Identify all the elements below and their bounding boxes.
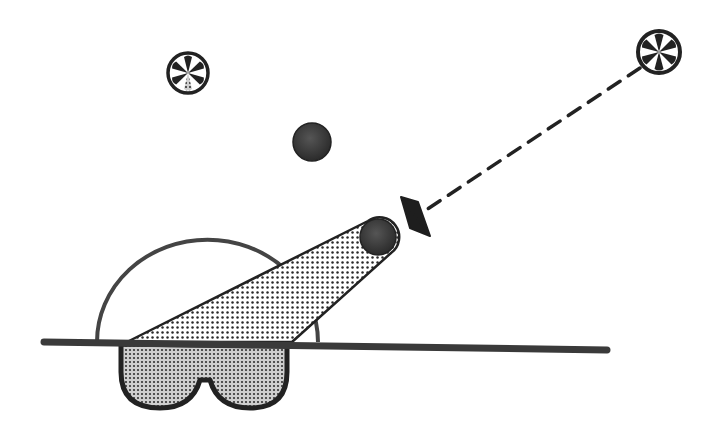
ball-cone-tip	[360, 219, 396, 255]
ball-top	[293, 123, 331, 161]
dashed-ray	[420, 68, 640, 214]
diagram-canvas	[0, 0, 723, 435]
source-left-icon	[168, 53, 208, 93]
cone-beam	[127, 217, 399, 342]
arrowhead-icon	[401, 197, 430, 236]
source-right-icon	[638, 31, 680, 73]
base-cup	[121, 344, 287, 408]
